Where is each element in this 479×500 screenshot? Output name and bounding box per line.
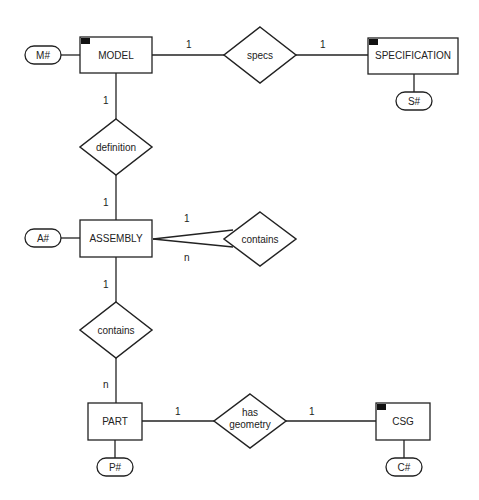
svg-text:definition: definition xyxy=(96,142,136,153)
svg-text:geometry: geometry xyxy=(229,419,271,430)
marker-icon xyxy=(377,404,386,410)
svg-text:A#: A# xyxy=(37,233,50,244)
key-attribute-m[interactable]: M# xyxy=(25,46,61,64)
cardinality-label: 1 xyxy=(186,39,192,50)
cardinality-label: n xyxy=(184,252,190,263)
entity-label: SPECIFICATION xyxy=(375,50,451,61)
relationship-contains-self[interactable]: contains xyxy=(224,212,296,266)
entity-csg[interactable]: CSG xyxy=(376,403,430,440)
cardinality-label: 1 xyxy=(320,39,326,50)
marker-icon xyxy=(81,38,90,44)
entity-label: MODEL xyxy=(98,50,134,61)
entity-assembly[interactable]: ASSEMBLY xyxy=(80,220,152,257)
relationship-definition[interactable]: definition xyxy=(80,119,152,175)
cardinality-label: 1 xyxy=(103,197,109,208)
entity-label: CSG xyxy=(392,416,414,427)
key-attribute-a[interactable]: A# xyxy=(25,229,61,247)
cardinality-label: 1 xyxy=(103,95,109,106)
svg-text:P#: P# xyxy=(109,462,122,473)
marker-icon xyxy=(369,39,378,45)
cardinality-label: 1 xyxy=(175,406,181,417)
relationship-has-geometry[interactable]: has geometry xyxy=(214,394,286,448)
relationship-specs[interactable]: specs xyxy=(224,27,296,83)
svg-text:contains: contains xyxy=(97,325,134,336)
cardinality-label: 1 xyxy=(309,406,315,417)
svg-text:specs: specs xyxy=(247,50,273,61)
key-attribute-s[interactable]: S# xyxy=(396,92,432,110)
entity-label: ASSEMBLY xyxy=(89,233,142,244)
entity-label: PART xyxy=(102,416,128,427)
cardinality-label: 1 xyxy=(184,213,190,224)
cardinality-label: 1 xyxy=(103,279,109,290)
svg-text:contains: contains xyxy=(241,234,278,245)
key-attribute-p[interactable]: P# xyxy=(97,458,133,476)
svg-text:has: has xyxy=(242,407,258,418)
line-assembly-contains-1 xyxy=(153,230,233,239)
key-attribute-c[interactable]: C# xyxy=(386,458,422,476)
entity-model[interactable]: MODEL xyxy=(80,37,152,73)
svg-text:M#: M# xyxy=(36,50,50,61)
line-assembly-contains-n xyxy=(153,239,233,247)
relationship-contains-part[interactable]: contains xyxy=(80,302,152,358)
svg-text:S#: S# xyxy=(408,96,421,107)
er-diagram: MODEL SPECIFICATION ASSEMBLY PART CSG M#… xyxy=(0,0,479,500)
svg-text:C#: C# xyxy=(398,462,411,473)
cardinality-label: n xyxy=(103,379,109,390)
entity-specification[interactable]: SPECIFICATION xyxy=(368,38,458,74)
entity-part[interactable]: PART xyxy=(88,403,142,440)
